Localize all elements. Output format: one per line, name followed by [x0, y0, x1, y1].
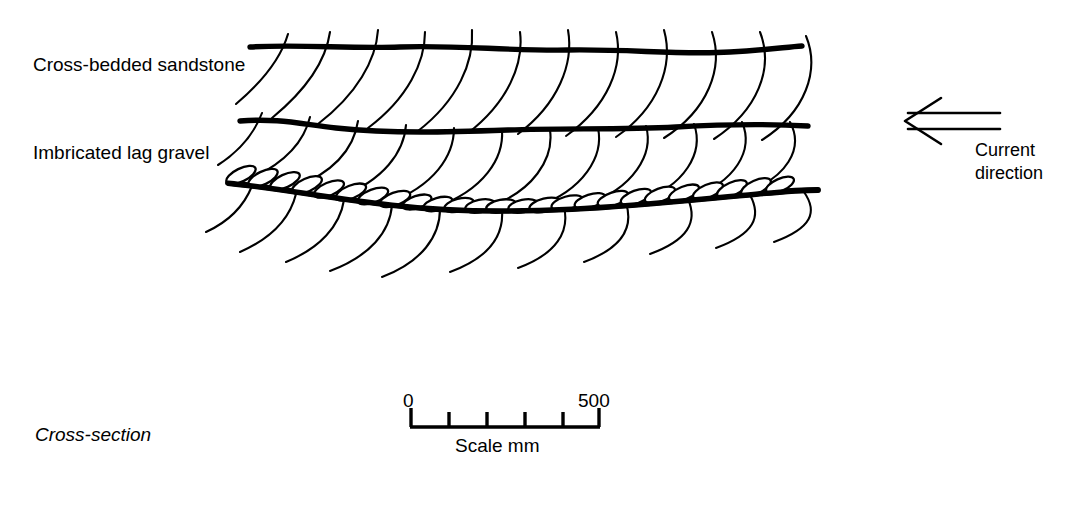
label-cross-bedded-sandstone: Cross-bedded sandstone: [33, 54, 245, 76]
bounding-surface-middle: [240, 120, 808, 132]
current-direction-arrow-icon: [905, 98, 1000, 144]
cross-section-drawing: [0, 0, 1085, 530]
bounding-surface-top: [250, 46, 802, 53]
figure-canvas: Cross-bedded sandstone Imbricated lag gr…: [0, 0, 1085, 530]
scale-caption: Scale mm: [455, 435, 539, 457]
current-direction-label-line1: Current: [975, 140, 1035, 161]
current-direction-label-line2: direction: [975, 163, 1043, 184]
scale-min-label: 0: [403, 390, 414, 412]
scale-bar: [410, 408, 600, 427]
figure-caption: Cross-section: [35, 424, 151, 446]
label-imbricated-lag-gravel: Imbricated lag gravel: [33, 142, 209, 164]
imbricated-clast-group: [224, 162, 796, 215]
scale-max-label: 500: [578, 390, 610, 412]
